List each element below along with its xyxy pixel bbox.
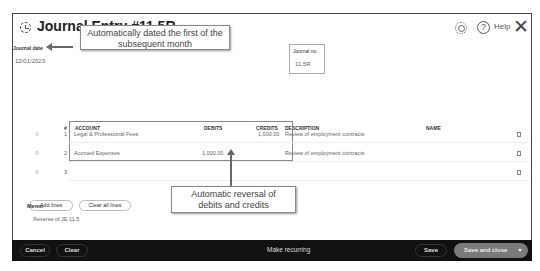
- drag-handle-icon[interactable]: [35, 151, 39, 155]
- journal-date-field[interactable]: 12/01/2023: [15, 58, 45, 64]
- trash-icon[interactable]: [517, 132, 521, 137]
- callout-date: Automatically dated the first of the sub…: [80, 25, 230, 50]
- account-cell[interactable]: Accrued Expenses: [74, 150, 120, 156]
- chevron-down-icon[interactable]: [518, 249, 522, 252]
- arrow-icon: [51, 46, 73, 48]
- help-link[interactable]: Help: [494, 22, 510, 31]
- drag-handle-icon[interactable]: [35, 132, 39, 136]
- arrow-icon: [230, 154, 232, 186]
- save-button[interactable]: Save: [415, 244, 447, 257]
- col-name: NAME: [426, 125, 441, 131]
- callout-text: Automatically dated the first of the: [81, 28, 229, 39]
- callout-text: debits and credits: [172, 200, 295, 211]
- account-cell[interactable]: Legal & Professional Fees: [74, 131, 138, 137]
- cancel-button[interactable]: Cancel: [20, 244, 50, 257]
- footer-bar: Cancel Clear Make recurring Save Save an…: [12, 240, 532, 261]
- row-num: 2: [64, 150, 67, 156]
- description-cell[interactable]: Review of employment contracts: [285, 150, 364, 156]
- journal-no-field[interactable]: Journal no. 11.5R: [289, 44, 325, 74]
- save-and-close-button[interactable]: Save and close: [454, 243, 528, 258]
- journal-no-value[interactable]: 11.5R: [295, 61, 311, 67]
- row-divider: [69, 180, 529, 181]
- row-divider: [69, 161, 529, 162]
- make-recurring-button[interactable]: Make recurring: [267, 246, 310, 253]
- row-num: 1: [64, 131, 67, 137]
- callout-text: subsequent month: [81, 39, 229, 50]
- journal-no-label: Journal no.: [293, 48, 318, 54]
- debits-cell[interactable]: 1,000.00: [202, 150, 223, 156]
- close-icon[interactable]: ✕: [513, 17, 529, 36]
- history-icon[interactable]: [20, 22, 31, 33]
- credits-cell[interactable]: 1,000.00: [258, 131, 279, 137]
- callout-text: Automatic reversal of: [172, 189, 295, 200]
- drag-handle-icon[interactable]: [35, 170, 39, 174]
- trash-icon[interactable]: [517, 170, 521, 175]
- row-divider: [69, 142, 529, 143]
- help-icon[interactable]: ?: [477, 21, 490, 34]
- clear-all-lines-button[interactable]: Clear all lines: [79, 200, 131, 211]
- gear-icon[interactable]: [455, 22, 467, 34]
- memo-field[interactable]: Reverse of JE 11.5: [33, 216, 79, 222]
- callout-reversal: Automatic reversal of debits and credits: [171, 186, 296, 213]
- save-and-close-label: Save and close: [464, 247, 507, 253]
- trash-icon[interactable]: [517, 151, 521, 156]
- row-num: 3: [64, 169, 67, 175]
- clear-button[interactable]: Clear: [56, 244, 88, 257]
- journal-date-label: Journal date: [13, 45, 43, 51]
- description-cell[interactable]: Review of employment contracts: [285, 131, 364, 137]
- memo-label: Memo: [27, 203, 43, 209]
